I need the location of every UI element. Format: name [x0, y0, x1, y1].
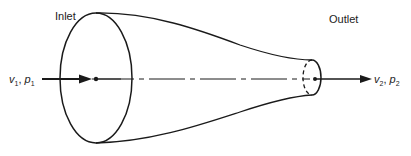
- outlet-state-label: v2, p2: [374, 73, 400, 87]
- inlet-center-dot: [94, 77, 98, 81]
- inlet-flow-arrowhead-icon: [79, 75, 92, 84]
- outlet-cross-section-hidden: [303, 60, 312, 95]
- inlet-label: Inlet: [55, 10, 76, 22]
- outlet-label: Outlet: [329, 13, 358, 25]
- outlet-pressure-subscript: 2: [396, 80, 400, 87]
- inlet-state-label: v1, p1: [9, 73, 35, 87]
- outlet-cross-section-front: [312, 60, 321, 95]
- nozzle-diagram: Inlet Outlet v1, p1 v2, p2: [0, 0, 411, 156]
- nozzle-bottom-wall: [96, 95, 312, 143]
- outlet-pressure-symbol: p: [389, 73, 396, 85]
- nozzle-top-wall: [96, 13, 312, 60]
- inlet-pressure-subscript: 1: [31, 80, 35, 87]
- outlet-flow-arrowhead-icon: [360, 75, 372, 83]
- inlet-pressure-symbol: p: [24, 73, 31, 85]
